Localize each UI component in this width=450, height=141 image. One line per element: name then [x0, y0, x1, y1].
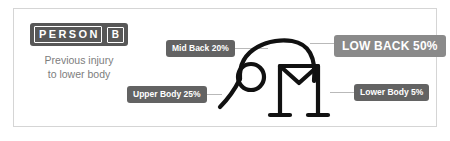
person-subtitle: Previous injury to lower body	[19, 53, 139, 81]
person-badge-letter: B	[107, 27, 124, 43]
person-badge-word: PERSON	[34, 26, 102, 43]
callout-upper-body: Upper Body 25%	[127, 86, 207, 103]
callout-lower-body: Lower Body 5%	[354, 84, 429, 101]
person-identity-block: PERSON B Previous injury to lower body	[19, 23, 139, 81]
figure-arm	[220, 79, 240, 107]
figure-spine	[240, 40, 314, 81]
person-injury-card: PERSON B Previous injury to lower body M…	[13, 8, 437, 127]
person-badge: PERSON B	[30, 23, 128, 46]
bent-over-stick-figure	[210, 19, 360, 134]
